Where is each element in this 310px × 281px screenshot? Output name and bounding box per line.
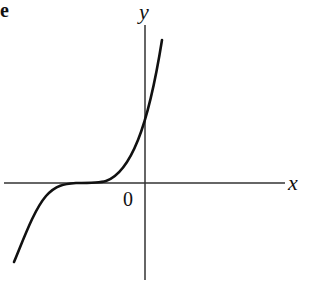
- x-axis-label: x: [288, 172, 298, 194]
- y-axis-label: y: [139, 1, 149, 23]
- function-curve: [14, 40, 162, 262]
- graph-figure: e y x 0: [0, 0, 310, 281]
- graph-canvas: [0, 0, 310, 281]
- corner-label: e: [0, 0, 9, 20]
- origin-label: 0: [123, 189, 133, 209]
